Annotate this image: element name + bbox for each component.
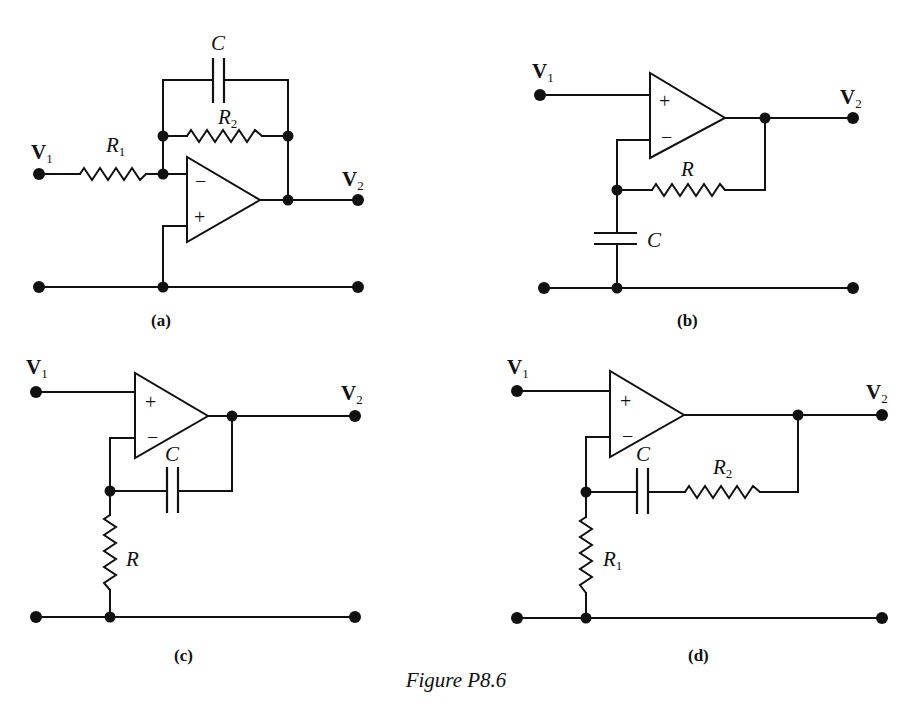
panel-label: (c)	[174, 646, 193, 665]
noninverting-input-sign: +	[620, 390, 631, 412]
junction-node	[612, 185, 623, 196]
circuit-panel-d: + − V1 V2 C R2 R1 (d)	[507, 355, 888, 665]
panel-label: (a)	[151, 311, 171, 330]
junction-node	[581, 613, 592, 624]
inverting-input-sign: −	[195, 170, 206, 192]
capacitor-c-label: C	[647, 228, 662, 252]
figure-canvas: − + V1 V2 R1 R2 C (a) + −	[0, 0, 912, 710]
capacitor-c-label: C	[636, 442, 651, 466]
resistor-r2-label: R2	[217, 105, 237, 131]
output-terminal	[847, 112, 859, 124]
output-voltage-label: V2	[840, 85, 862, 111]
junction-node	[793, 410, 804, 421]
resistor-r-symbol	[104, 515, 116, 590]
resistor-r-label: R	[680, 157, 694, 181]
input-terminal	[534, 89, 546, 101]
junction-node	[581, 487, 592, 498]
circuit-panel-a: − + V1 V2 R1 R2 C (a)	[31, 31, 364, 330]
resistor-r2-symbol	[685, 486, 760, 498]
resistor-r1-label: R1	[602, 547, 622, 573]
ground-terminal	[349, 611, 361, 623]
capacitor-c-label: C	[165, 442, 180, 466]
circuit-panel-c: + − V1 V2 C R (c)	[26, 355, 363, 665]
junction-node	[283, 195, 294, 206]
panel-label: (b)	[677, 311, 698, 330]
circuit-panel-b: + − V1 V2 R C (b)	[532, 59, 862, 330]
resistor-r-label: R	[125, 547, 139, 571]
junction-node	[612, 283, 623, 294]
inverting-input-sign: −	[661, 126, 672, 148]
input-terminal	[511, 385, 523, 397]
resistor-r2-label: R2	[712, 455, 732, 481]
input-terminal	[33, 168, 45, 180]
resistor-r2-symbol	[187, 130, 262, 142]
output-voltage-label: V2	[866, 380, 888, 406]
capacitor-c-label: C	[211, 31, 226, 55]
junction-node	[105, 486, 116, 497]
junction-node	[227, 411, 238, 422]
output-voltage-label: V2	[342, 167, 364, 193]
panel-label: (d)	[688, 646, 709, 665]
resistor-r1-symbol	[580, 517, 592, 593]
ground-terminal	[847, 282, 859, 294]
resistor-r1-symbol	[80, 168, 146, 180]
ground-terminal	[876, 612, 888, 624]
ground-terminal	[511, 612, 523, 624]
ground-terminal	[33, 281, 45, 293]
junction-node	[105, 612, 116, 623]
input-terminal	[30, 386, 42, 398]
input-voltage-label: V1	[532, 59, 554, 85]
output-terminal	[352, 194, 364, 206]
output-terminal	[349, 410, 361, 422]
output-voltage-label: V2	[341, 381, 363, 407]
noninverting-input-sign: +	[145, 391, 156, 413]
noninverting-input-sign: +	[659, 90, 670, 112]
junction-node	[760, 113, 771, 124]
ground-terminal	[352, 281, 364, 293]
ground-terminal	[30, 611, 42, 623]
inverting-input-sign: −	[147, 426, 158, 448]
ground-terminal	[538, 282, 550, 294]
junction-node	[158, 282, 169, 293]
figure-caption: Figure P8.6	[405, 668, 507, 692]
junction-node	[158, 131, 169, 142]
input-voltage-label: V1	[507, 355, 529, 381]
inverting-input-sign: −	[622, 425, 633, 447]
junction-node	[283, 131, 294, 142]
junction-node	[158, 169, 169, 180]
resistor-r-symbol	[652, 184, 725, 196]
input-voltage-label: V1	[31, 140, 53, 166]
noninverting-input-sign: +	[194, 206, 205, 228]
resistor-r1-label: R1	[105, 133, 125, 159]
input-voltage-label: V1	[26, 355, 48, 381]
output-terminal	[876, 409, 888, 421]
